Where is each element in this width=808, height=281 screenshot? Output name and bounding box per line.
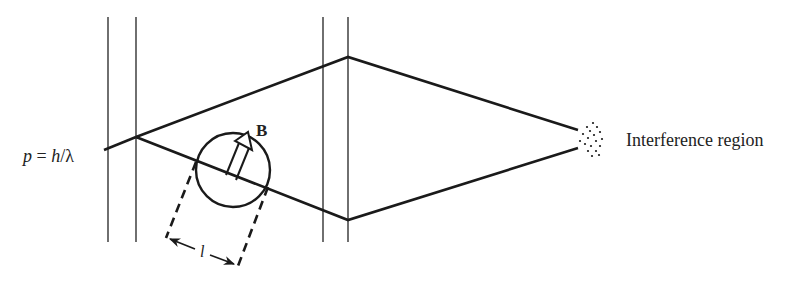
dashed-line-left: [166, 162, 196, 238]
solenoid-circle: [196, 133, 270, 207]
momentum-p: p: [21, 146, 32, 166]
vertical-barriers: [108, 17, 348, 242]
beam-paths: [104, 57, 578, 220]
momentum-lambda: /λ: [60, 146, 74, 166]
momentum-eq: =: [32, 146, 51, 166]
aharonov-bohm-diagram: B l p = h/λ Interference region: [0, 0, 808, 281]
field-label: B: [256, 121, 267, 140]
length-label: l: [200, 243, 205, 260]
momentum-h: h: [51, 146, 60, 166]
upper-path: [136, 57, 578, 137]
dim-arrow-right-icon: [210, 255, 234, 264]
dashed-projection: [166, 162, 268, 266]
incoming-beam: [104, 137, 136, 150]
momentum-label: p = h/λ: [21, 146, 74, 166]
dim-arrow-left-icon: [170, 239, 195, 249]
interference-region-label: Interference region: [626, 130, 763, 150]
dashed-line-right: [238, 187, 268, 266]
interference-dots-icon: [579, 122, 603, 157]
